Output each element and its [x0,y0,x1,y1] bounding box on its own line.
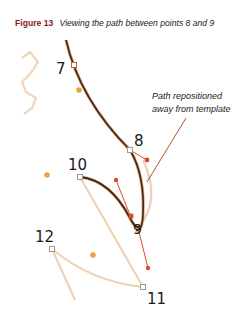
point-label-12: 12 [35,228,54,246]
anchor-point-9[interactable] [129,214,133,218]
anchor-point-8[interactable] [128,148,133,153]
path-segment-7-8-outline [66,40,130,150]
point-label-8: 8 [134,132,144,150]
path-diagram: 7 8 9 10 11 12 Path repositioned away fr… [0,0,234,311]
anchor-point-11[interactable] [141,285,146,290]
point-label-10: 10 [68,156,87,174]
point-label-11: 11 [147,290,166,308]
path-segment-10-9 [80,177,140,227]
handle-dot-9-up[interactable] [114,178,118,182]
guide-dot [90,252,96,258]
annotation-line-1: Path repositioned [152,91,223,101]
point-label-9: 9 [133,221,142,237]
anchor-point-7[interactable] [72,63,77,68]
annotation-line-2: away from template [152,104,231,114]
path-segment-7-8 [66,40,130,150]
guide-dot [44,172,50,178]
anchor-point-12[interactable] [50,247,55,252]
annotation-leader-line [147,118,186,182]
handle-dot-9-down[interactable] [146,266,150,270]
guide-dot [76,87,82,93]
anchor-point-10[interactable] [78,175,83,180]
handle-dot-8[interactable] [145,158,150,163]
point-label-7: 7 [56,60,66,78]
template-squiggle [22,52,38,114]
